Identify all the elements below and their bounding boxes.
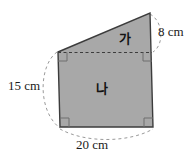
dimension-label-right: 8 cm (158, 25, 184, 38)
geometry-figure: 가 나 8 cm 15 cm 20 cm (0, 0, 193, 158)
region-label-ga: 가 (119, 32, 131, 45)
trapezoid-outline (58, 13, 153, 127)
dimension-label-bottom: 20 cm (76, 138, 108, 151)
dimension-label-left: 15 cm (8, 79, 40, 92)
left-measure-arc (43, 52, 60, 128)
region-label-na: 나 (96, 82, 108, 95)
